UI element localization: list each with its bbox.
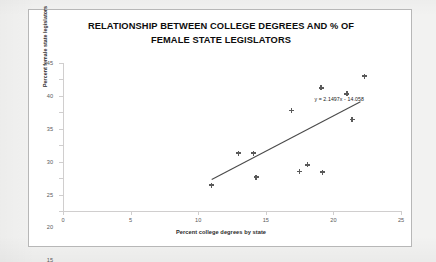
chart-title-line-2: FEMALE STATE LEGISLATORS — [47, 34, 395, 48]
x-tick-label-15: 15 — [263, 217, 269, 223]
y-tick-label-35: 35 — [47, 126, 53, 132]
y-axis-title: Percent female state legislators — [42, 6, 48, 87]
x-tick-label-20: 20 — [330, 217, 336, 223]
x-tick-label-25: 25 — [398, 217, 404, 223]
y-tick-label-30: 30 — [47, 159, 53, 165]
chart-card: RELATIONSHIP BETWEEN COLLEGE DEGREES AND… — [28, 9, 412, 247]
trendline — [63, 63, 401, 212]
chart-title-line-1: RELATIONSHIP BETWEEN COLLEGE DEGREES AND… — [47, 20, 395, 34]
y-tick-label-25: 25 — [47, 192, 53, 198]
chart-title: RELATIONSHIP BETWEEN COLLEGE DEGREES AND… — [47, 20, 395, 47]
plot-area: 051015202530354045 0510152025 y = 2.1497… — [63, 63, 401, 211]
x-tick-25 — [401, 211, 402, 215]
y-tick-label-20: 20 — [47, 224, 53, 230]
x-tick-label-5: 5 — [129, 217, 132, 223]
y-tick-label-40: 40 — [47, 93, 53, 99]
x-tick-label-10: 10 — [195, 217, 201, 223]
x-tick-label-0: 0 — [61, 217, 64, 223]
y-tick-label-45: 45 — [47, 60, 53, 66]
y-tick-label-15: 15 — [47, 257, 53, 262]
x-axis-title: Percent college degrees by state — [29, 229, 413, 235]
trendline-equation-label: y = 2.1497x - 14.058 — [314, 96, 363, 102]
chart-figure: RELATIONSHIP BETWEEN COLLEGE DEGREES AND… — [0, 0, 436, 262]
